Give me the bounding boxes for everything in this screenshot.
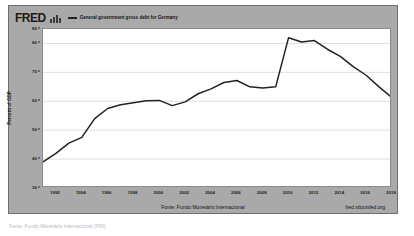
fred-chart-card: FRED General government gross debt for G… [8,5,398,214]
x-tick-label: 2008 [257,190,267,195]
x-tick-label: 1992 [50,190,60,195]
y-tick-label: 30 [32,185,37,190]
screenshot-root: FRED General government gross debt for G… [0,0,414,236]
y-tick-label: 60 [32,98,37,103]
fred-url[interactable]: fred.stlouisfed.org [345,204,385,211]
y-tick-label: 40 [32,156,37,161]
fred-logo: FRED [15,12,46,24]
y-tick-mark [38,158,40,159]
x-tick-label: 1994 [76,190,86,195]
x-tick-label: 2018 [386,190,396,195]
plot-area [42,28,391,187]
chart-footer: Fonte: Fundo Monetário Internacional fre… [15,202,391,214]
x-tick-label: 1998 [128,190,138,195]
y-tick-mark [38,187,40,188]
y-axis-labels: Percent of GDP 85807060504030 [9,28,40,187]
y-tick-mark [38,42,40,43]
y-tick-label: 80 [32,40,37,45]
y-tick-mark [38,129,40,130]
chart-canvas [43,29,391,187]
plot-area-wrapper [42,28,391,187]
x-tick-label: 2016 [360,190,370,195]
y-tick-label: 70 [32,69,37,74]
x-tick-label: 2004 [205,190,215,195]
x-tick-label: 2010 [283,190,293,195]
x-axis-labels: 1992199419961998200020022004200620082010… [42,188,391,198]
y-tick-mark [38,71,40,72]
bar-chart-icon [50,14,61,23]
legend-label: General government gross debt for German… [80,15,178,21]
figure-caption: Fonte: Fundo Monetário Internacional (FM… [9,222,405,230]
x-tick-label: 2012 [309,190,319,195]
y-axis-title: Percent of GDP [7,91,12,125]
chart-legend: General government gross debt for German… [68,15,178,21]
y-tick-label: 50 [32,127,37,132]
y-tick-label: 85 [32,26,37,31]
y-tick-mark [38,100,40,101]
chart-header: FRED General government gross debt for G… [15,11,391,25]
x-tick-label: 2000 [153,190,163,195]
source-note: Fonte: Fundo Monetário Internacional [161,204,244,211]
x-tick-label: 2002 [179,190,189,195]
series-line [43,38,391,162]
x-tick-label: 1996 [102,190,112,195]
x-tick-label: 2006 [231,190,241,195]
x-tick-label: 2014 [334,190,344,195]
legend-line-swatch [68,17,77,19]
y-tick-mark [38,28,40,29]
